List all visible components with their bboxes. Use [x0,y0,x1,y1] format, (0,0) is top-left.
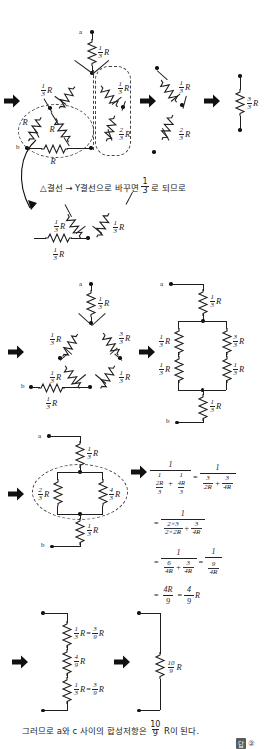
terminal-b-2 [29,385,33,389]
wire [160,613,161,654]
math-line1-den-a: 1 2R 3 [153,472,166,495]
resistor-label-series-2: 49R [73,654,85,669]
resistor-label-3-3-R: 33R [246,96,258,111]
resistor-label-diamond-ul: 13R [49,332,61,347]
resistor-final [155,652,165,679]
resistor-label-par-bottom: 13R [86,523,98,538]
math-line-4: = 4R 9 = 4 9 R [152,585,200,606]
step-arrow-4 [8,345,24,359]
conclusion-pre: 그러므로 a와 c 사이의 합성저항은 [22,724,147,736]
terminal-bottom-2 [152,150,156,154]
resistor-label-diamond-top: 13R [97,296,109,311]
math-line3-op: + [174,563,183,572]
resistor-label-ladder-top: 13R [209,294,221,309]
resistor-y-right [95,211,114,235]
resistor-label-ladder-r2: 13R [232,362,244,377]
resistor-label-diamond-lr: 13R [118,370,130,385]
wire [183,96,187,109]
resistor-2-3-R-series [159,113,178,139]
resistor-diamond-lr [99,363,119,387]
step-arrow-1 [4,94,20,108]
resistor-label-y-right: 13R [112,220,124,235]
resistor-series-3 [62,677,72,701]
resistor-label-diamond-b-lead: 13R [45,396,57,411]
wire [50,436,80,437]
caption-delta-to-y: △결선 → Y결선으로 바꾸면 13 로 되므로 [40,178,186,195]
math-line3-result: 1 9 4R [205,547,222,577]
terminal-b-3 [175,421,179,425]
math-line2-expr: 1 2×3 2×2R + 3 4R [161,509,205,537]
terminal-bottom-3 [238,128,242,132]
wire [140,710,160,711]
math-line1-op: + [166,479,175,488]
answer-label: 답 [236,738,246,749]
step-arrow-7 [131,465,147,479]
solution-page: a 13R 13R 13R R R b [0,0,274,749]
resistor-1-3-R-series [157,77,179,102]
parallel-highlight-ellipse [32,464,128,520]
resistor-ladder-l2 [174,356,184,380]
step-arrow-6 [8,487,24,501]
wire [226,380,227,390]
wire [71,238,88,239]
resistor-diamond-top [86,290,96,317]
node-label-b-4: b [41,541,45,549]
step-arrow-5 [139,345,155,359]
resistor-label-final: 109R [166,660,182,675]
resistor-label-ladder-r1: 33R [232,334,244,349]
resistor-label-1-3-R-left: 13R [40,83,52,98]
terminal-bottom-final-right [137,709,141,713]
resistor-ladder-r2 [222,356,232,380]
math-line1-den-b: 1 4R 3 [175,472,188,495]
resistor-label-series-3: 13R=39R [73,682,104,697]
resistor-a-top [87,39,97,66]
wire [178,380,179,390]
caption-fraction: 13 [141,178,148,195]
resistor-label-diamond-ur: 33R [118,331,130,346]
branch-highlight-rounded [95,66,131,156]
resistor-label-par-top: 13R [86,446,98,461]
math-line3-den-a: 6 4R [164,560,175,576]
wire [64,387,90,388]
resistor-series-2 [62,649,72,673]
caption-delta-to-y-text: △결선 → Y결선으로 바꾸면 [40,181,139,193]
node-label-b-3: b [166,417,170,425]
math-line-1: 1 1 2R 3 + 1 4R [150,460,236,495]
math-line1-lhs: 1 1 2R 3 + 1 4R [150,460,191,495]
conclusion-post: R이 된다. [164,724,199,736]
terminal-b-4 [50,545,54,549]
wire [178,422,203,423]
resistor-label-series-1: 13R=39R [73,626,104,641]
resistor-y-bottom [45,233,72,243]
resistor-par-bottom [75,518,85,542]
node-label-a-3: a [160,280,163,288]
wire [140,613,160,614]
resistor-label-ladder-bottom: 13R [209,399,221,414]
resistor-ladder-bottom [198,394,208,418]
wire [178,321,226,322]
resistor-par-top [75,441,85,465]
conclusion-fraction: 109 [149,721,161,738]
math-line4-equals2: = [175,591,184,600]
step-arrow-8 [12,655,28,669]
resistor-diamond-b-lead [38,383,65,393]
math-line-2: = 1 2×3 2×2R + 3 4R [152,509,205,537]
conclusion-text: 그러므로 a와 c 사이의 합성저항은 109 R이 된다. [22,721,199,738]
resistor-series-1 [62,621,72,645]
math-line-3: = 1 6 4R + 3 4R = 1 9 4R [152,547,222,577]
step-arrow-9 [114,655,130,669]
resistor-3-3-R [235,89,245,116]
wire [172,284,203,285]
node-bottom-right-1 [89,146,93,150]
node-label-a-4: a [38,432,41,440]
resistor-label-ladder-l1: 13R [158,334,170,349]
resistor-label-1-3-R-a: 13R [97,45,109,60]
resistor-ladder-l1 [174,328,184,352]
math-line4-equals: = [152,591,161,600]
step-arrow-3 [204,94,220,108]
resistor-label-ladder-l2: 13R [158,362,170,377]
node-label-a-1: a [79,28,82,36]
math-line2-equals: = [152,519,161,528]
wire [44,710,67,711]
wire [160,679,161,710]
